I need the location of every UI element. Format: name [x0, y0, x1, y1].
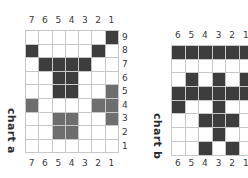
grid-cell [172, 128, 186, 142]
grid-cell [39, 72, 52, 86]
grid-cell [172, 87, 186, 101]
chart-a-grid [25, 30, 119, 153]
grid-cell [213, 60, 227, 74]
column-label: 2 [225, 158, 239, 168]
grid-cell [53, 31, 66, 45]
grid-cell [213, 142, 227, 156]
grid-cell [79, 85, 92, 99]
grid-cell [92, 31, 105, 45]
grid-cell [66, 72, 79, 86]
grid-cell [213, 128, 227, 142]
grid-cell [39, 126, 52, 140]
grid-cell [172, 60, 186, 74]
grid-cell [26, 126, 39, 140]
grid-cell [53, 99, 66, 113]
grid-cell [240, 87, 248, 101]
grid-cell [79, 99, 92, 113]
grid-cell [106, 72, 119, 86]
grid-cell [26, 45, 39, 59]
row-label: 4 [122, 98, 128, 112]
row-label: 9 [122, 30, 128, 44]
grid-cell [172, 142, 186, 156]
grid-cell [53, 72, 66, 86]
grid-cell [240, 101, 248, 115]
grid-cell [39, 45, 52, 59]
column-label: 2 [91, 158, 104, 168]
row-label: 1 [122, 139, 128, 153]
grid-cell [186, 114, 200, 128]
grid-cell [26, 58, 39, 72]
grid-cell [186, 87, 200, 101]
grid-cell [39, 31, 52, 45]
grid-cell [53, 126, 66, 140]
grid-cell [172, 114, 186, 128]
grid-cell [240, 60, 248, 74]
column-label: 6 [171, 158, 185, 168]
grid-cell [186, 73, 200, 87]
grid-cell [66, 45, 79, 59]
column-label: 3 [212, 158, 226, 168]
grid-cell [240, 73, 248, 87]
column-label: 5 [52, 15, 65, 25]
grid-cell [39, 58, 52, 72]
column-label: 6 [38, 15, 51, 25]
column-label: 5 [185, 30, 199, 40]
grid-cell [172, 46, 186, 60]
chart-b-column-labels-top: 654321 [171, 30, 248, 40]
grid-cell [186, 128, 200, 142]
grid-cell [199, 128, 213, 142]
grid-cell [106, 31, 119, 45]
grid-cell [226, 114, 240, 128]
grid-cell [199, 101, 213, 115]
grid-cell [53, 45, 66, 59]
column-label: 1 [239, 158, 248, 168]
grid-cell [39, 140, 52, 154]
grid-cell [106, 126, 119, 140]
grid-cell [240, 142, 248, 156]
grid-cell [53, 113, 66, 127]
grid-cell [79, 72, 92, 86]
grid-cell [66, 126, 79, 140]
grid-cell [199, 46, 213, 60]
column-label: 1 [105, 158, 118, 168]
grid-cell [213, 73, 227, 87]
grid-cell [92, 126, 105, 140]
grid-cell [26, 85, 39, 99]
grid-cell [186, 46, 200, 60]
grid-cell [106, 85, 119, 99]
grid-cell [53, 140, 66, 154]
grid-cell [26, 99, 39, 113]
grid-cell [92, 99, 105, 113]
grid-cell [92, 85, 105, 99]
grid-cell [199, 73, 213, 87]
chart-b-title: chart b [151, 113, 164, 159]
grid-cell [26, 72, 39, 86]
grid-cell [106, 45, 119, 59]
grid-cell [186, 101, 200, 115]
grid-cell [186, 60, 200, 74]
grid-cell [186, 142, 200, 156]
grid-cell [53, 85, 66, 99]
grid-cell [39, 85, 52, 99]
column-label: 2 [91, 15, 104, 25]
column-label: 7 [25, 158, 38, 168]
grid-cell [92, 113, 105, 127]
grid-cell [240, 114, 248, 128]
grid-cell [26, 140, 39, 154]
grid-cell [66, 31, 79, 45]
column-label: 3 [78, 15, 91, 25]
grid-cell [172, 73, 186, 87]
grid-cell [226, 128, 240, 142]
grid-cell [79, 58, 92, 72]
grid-cell [26, 31, 39, 45]
row-label: 8 [122, 44, 128, 58]
grid-cell [66, 58, 79, 72]
grid-cell [79, 45, 92, 59]
column-label: 7 [25, 15, 38, 25]
grid-cell [226, 46, 240, 60]
grid-cell [66, 85, 79, 99]
grid-cell [199, 142, 213, 156]
column-label: 2 [225, 30, 239, 40]
grid-cell [240, 46, 248, 60]
grid-cell [213, 46, 227, 60]
